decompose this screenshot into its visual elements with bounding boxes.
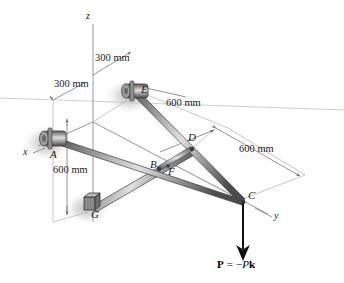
force-unit-vector: k [249,258,255,270]
point-label-e: E [141,83,148,95]
dimension-label-600-left: 600 mm [53,164,88,175]
axis-label-z: z [86,10,90,21]
point-label-f: F [168,165,175,177]
diagram-canvas [0,0,344,283]
force-symbol: P [217,258,224,270]
point-label-d: D [188,131,196,143]
statics-diagram: z x y A B C D E F G 300 mm 300 mm 600 mm… [0,0,344,283]
dimension-label-600-upper: 600 mm [166,97,201,108]
y-axis-arrow [255,208,272,217]
dimension-label-300-lower: 300 mm [54,78,89,89]
axis-label-y: y [274,210,278,221]
dimension-label-600-right: 600 mm [239,143,274,154]
node-d [190,147,194,151]
point-label-b: B [150,158,157,170]
force-magnitude: P [242,258,249,270]
point-label-c: C [248,189,255,201]
support-a [40,128,67,149]
axis-label-x: x [23,146,27,157]
force-label: P=−Pk [217,258,255,270]
force-equals: = [227,258,233,270]
point-label-g: G [91,208,99,220]
point-label-a: A [50,148,57,160]
node-b [157,167,161,171]
dimension-label-300-upper: 300 mm [95,52,130,63]
